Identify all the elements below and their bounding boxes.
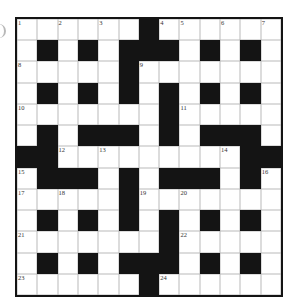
- answer-cell[interactable]: [220, 83, 240, 104]
- answer-cell[interactable]: 22: [179, 231, 199, 252]
- answer-cell[interactable]: [240, 61, 260, 82]
- answer-cell[interactable]: [220, 231, 240, 252]
- answer-cell[interactable]: [179, 253, 199, 274]
- answer-cell[interactable]: [220, 274, 240, 295]
- answer-cell[interactable]: [98, 168, 118, 189]
- answer-cell[interactable]: 17: [17, 189, 37, 210]
- answer-cell[interactable]: [37, 61, 57, 82]
- answer-cell[interactable]: 19: [139, 189, 159, 210]
- answer-cell[interactable]: [220, 253, 240, 274]
- answer-cell[interactable]: 24: [159, 274, 179, 295]
- answer-cell[interactable]: [261, 253, 281, 274]
- answer-cell[interactable]: [17, 125, 37, 146]
- answer-cell[interactable]: [98, 104, 118, 125]
- answer-cell[interactable]: [240, 104, 260, 125]
- answer-cell[interactable]: [261, 231, 281, 252]
- answer-cell[interactable]: [37, 231, 57, 252]
- answer-cell[interactable]: [240, 19, 260, 40]
- answer-cell[interactable]: 7: [261, 19, 281, 40]
- answer-cell[interactable]: [119, 231, 139, 252]
- answer-cell[interactable]: [17, 83, 37, 104]
- answer-cell[interactable]: [98, 40, 118, 61]
- answer-cell[interactable]: [200, 19, 220, 40]
- answer-cell[interactable]: [139, 146, 159, 167]
- answer-cell[interactable]: 23: [17, 274, 37, 295]
- answer-cell[interactable]: [159, 146, 179, 167]
- answer-cell[interactable]: [139, 210, 159, 231]
- answer-cell[interactable]: [17, 210, 37, 231]
- answer-cell[interactable]: [58, 83, 78, 104]
- answer-cell[interactable]: [200, 189, 220, 210]
- answer-cell[interactable]: [179, 83, 199, 104]
- answer-cell[interactable]: [139, 125, 159, 146]
- answer-cell[interactable]: [200, 104, 220, 125]
- answer-cell[interactable]: 6: [220, 19, 240, 40]
- answer-cell[interactable]: 20: [179, 189, 199, 210]
- answer-cell[interactable]: [261, 210, 281, 231]
- answer-cell[interactable]: [240, 189, 260, 210]
- answer-cell[interactable]: 3: [98, 19, 118, 40]
- answer-cell[interactable]: [220, 61, 240, 82]
- answer-cell[interactable]: 10: [17, 104, 37, 125]
- answer-cell[interactable]: [261, 83, 281, 104]
- answer-cell[interactable]: [179, 125, 199, 146]
- answer-cell[interactable]: [58, 231, 78, 252]
- answer-cell[interactable]: [139, 104, 159, 125]
- answer-cell[interactable]: [220, 168, 240, 189]
- answer-cell[interactable]: [159, 189, 179, 210]
- answer-cell[interactable]: [37, 274, 57, 295]
- answer-cell[interactable]: [78, 274, 98, 295]
- answer-cell[interactable]: [179, 274, 199, 295]
- answer-cell[interactable]: [58, 61, 78, 82]
- answer-cell[interactable]: [37, 104, 57, 125]
- answer-cell[interactable]: 16: [261, 168, 281, 189]
- answer-cell[interactable]: [78, 61, 98, 82]
- answer-cell[interactable]: [119, 146, 139, 167]
- answer-cell[interactable]: [78, 19, 98, 40]
- answer-cell[interactable]: [98, 231, 118, 252]
- answer-cell[interactable]: [78, 231, 98, 252]
- answer-cell[interactable]: [98, 189, 118, 210]
- answer-cell[interactable]: [261, 40, 281, 61]
- answer-cell[interactable]: [261, 274, 281, 295]
- answer-cell[interactable]: [261, 189, 281, 210]
- answer-cell[interactable]: [58, 40, 78, 61]
- answer-cell[interactable]: 12: [58, 146, 78, 167]
- answer-cell[interactable]: [98, 210, 118, 231]
- answer-cell[interactable]: [17, 253, 37, 274]
- answer-cell[interactable]: [98, 61, 118, 82]
- answer-cell[interactable]: 18: [58, 189, 78, 210]
- answer-cell[interactable]: [37, 19, 57, 40]
- answer-cell[interactable]: [179, 61, 199, 82]
- answer-cell[interactable]: 14: [220, 146, 240, 167]
- answer-cell[interactable]: [200, 61, 220, 82]
- answer-cell[interactable]: [37, 189, 57, 210]
- answer-cell[interactable]: [240, 231, 260, 252]
- answer-cell[interactable]: [139, 168, 159, 189]
- answer-cell[interactable]: 9: [139, 61, 159, 82]
- answer-cell[interactable]: [159, 61, 179, 82]
- answer-cell[interactable]: [139, 83, 159, 104]
- answer-cell[interactable]: [179, 146, 199, 167]
- answer-cell[interactable]: [58, 104, 78, 125]
- answer-cell[interactable]: 8: [17, 61, 37, 82]
- answer-cell[interactable]: [200, 146, 220, 167]
- answer-cell[interactable]: 13: [98, 146, 118, 167]
- answer-cell[interactable]: [200, 231, 220, 252]
- answer-cell[interactable]: [78, 104, 98, 125]
- answer-cell[interactable]: [200, 274, 220, 295]
- answer-cell[interactable]: [78, 189, 98, 210]
- answer-cell[interactable]: [240, 274, 260, 295]
- answer-cell[interactable]: [78, 146, 98, 167]
- answer-cell[interactable]: 5: [179, 19, 199, 40]
- answer-cell[interactable]: [119, 274, 139, 295]
- answer-cell[interactable]: [58, 274, 78, 295]
- answer-cell[interactable]: [98, 274, 118, 295]
- answer-cell[interactable]: [119, 19, 139, 40]
- answer-cell[interactable]: [220, 40, 240, 61]
- answer-cell[interactable]: [261, 61, 281, 82]
- answer-cell[interactable]: [261, 104, 281, 125]
- answer-cell[interactable]: 11: [179, 104, 199, 125]
- answer-cell[interactable]: 1: [17, 19, 37, 40]
- answer-cell[interactable]: [98, 83, 118, 104]
